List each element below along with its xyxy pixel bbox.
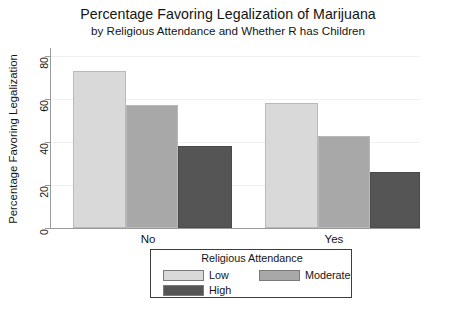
y-tick-label-80: 80 <box>38 57 50 71</box>
x-axis-line <box>50 228 420 229</box>
bar-no-high <box>178 146 232 228</box>
legend-swatch-high <box>163 285 204 296</box>
chart-subtitle: by Religious Attendance and Whether R ha… <box>0 23 456 38</box>
bar-yes-moderate <box>318 136 370 228</box>
y-tick-mark-0 <box>45 228 50 229</box>
bar-no-low <box>73 71 126 228</box>
legend-swatch-moderate <box>259 270 300 281</box>
legend-entry-moderate: Moderate <box>259 269 355 282</box>
chart-title: Percentage Favoring Legalization of Mari… <box>0 6 456 23</box>
chart-title-block: Percentage Favoring Legalization of Mari… <box>0 6 456 38</box>
y-tick-label-60: 60 <box>38 100 50 114</box>
legend-label-high: High <box>209 284 231 296</box>
legend-entry-high: High <box>163 284 253 297</box>
gridline-80 <box>51 56 420 57</box>
legend-entry-low: Low <box>163 269 253 282</box>
legend: Religious Attendance Low Moderate High <box>150 249 352 298</box>
y-tick-label-40: 40 <box>38 143 50 157</box>
bar-chart: Percentage Favoring Legalization of Mari… <box>0 0 456 315</box>
bar-no-moderate <box>126 105 178 228</box>
plot-area <box>50 48 420 229</box>
y-axis-title-label: Percentage Favoring Legalization <box>7 54 19 224</box>
y-tick-mark-40 <box>45 142 50 143</box>
legend-label-moderate: Moderate <box>305 269 351 281</box>
legend-title: Religious Attendance <box>151 252 353 264</box>
y-tick-label-20: 20 <box>38 186 50 200</box>
legend-label-low: Low <box>209 269 229 281</box>
y-axis-line <box>50 48 51 229</box>
y-tick-mark-60 <box>45 99 50 100</box>
y-tick-mark-20 <box>45 185 50 186</box>
x-tick-label-yes: Yes <box>306 233 362 245</box>
y-tick-mark-80 <box>45 56 50 57</box>
legend-swatch-low <box>163 270 204 281</box>
y-axis-title: Percentage Favoring Legalization <box>6 48 20 229</box>
y-tick-label-0: 0 <box>38 229 50 243</box>
bar-yes-low <box>265 103 318 228</box>
x-tick-label-no: No <box>120 233 176 245</box>
bar-yes-high <box>370 172 420 228</box>
